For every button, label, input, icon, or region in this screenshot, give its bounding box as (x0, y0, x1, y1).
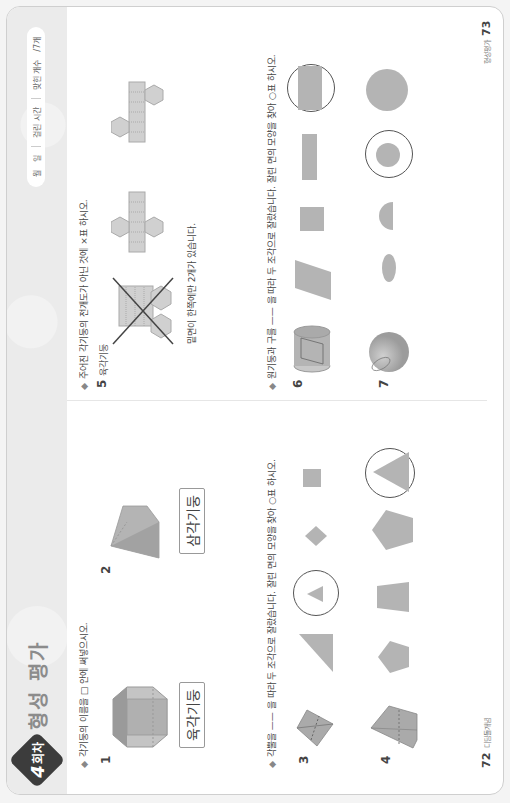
page-number-72: 72 (480, 753, 493, 768)
net-option-crossed[interactable] (111, 276, 175, 346)
question-5-hint: 밑면이 한쪽에만 2개가 있습니다. (185, 223, 198, 344)
rotated-spread: 4회차 형성 평가 월 일 걸린 시간 맞힌 개수 /7개 ◆각기둥의 이름을 … (0, 0, 510, 803)
bullet-icon: ◆ (79, 383, 89, 390)
option-triangle-large[interactable] (369, 450, 411, 494)
month-field[interactable]: 월 (31, 170, 42, 177)
option-square[interactable] (301, 467, 323, 489)
triangular-prism-icon (107, 502, 163, 562)
option-rhombus[interactable] (303, 524, 329, 548)
question-2-number: 2 (99, 566, 113, 574)
bullet-icon: ◆ (267, 383, 277, 390)
question-3-number: 3 (297, 756, 311, 764)
option-rectangle-thin[interactable] (299, 134, 321, 182)
option-triangle[interactable] (297, 632, 337, 676)
question-7-number: 7 (377, 380, 391, 388)
option-triangle-small[interactable] (303, 582, 327, 606)
option-circle-small[interactable] (375, 142, 401, 168)
square-pyramid-icon (293, 706, 337, 750)
option-square[interactable] (297, 204, 327, 234)
option-parallelogram[interactable] (293, 258, 335, 302)
option-pentagon[interactable] (375, 638, 413, 676)
divider (31, 146, 41, 147)
question-6-number: 6 (291, 380, 305, 388)
round-badge: 4회차 (17, 740, 57, 780)
section-3-instruction: ◆주어진 각기둥의 전개도가 아닌 것에 ×표 하시오. (77, 200, 90, 391)
pentagonal-pyramid-icon (369, 702, 421, 752)
sphere-icon (367, 330, 411, 374)
question-5-subtitle: 육각기둥 (97, 344, 110, 376)
bullet-icon: ◆ (267, 761, 277, 768)
net-option-a[interactable] (111, 190, 175, 254)
footer-label-right: 형성평가 (482, 40, 492, 64)
question-2-answer-box[interactable]: 삼각기둥 (179, 488, 205, 554)
option-rectangle[interactable] (297, 66, 323, 112)
question-1-number: 1 (99, 756, 113, 764)
net-option-b[interactable] (111, 80, 175, 144)
question-5-number: 5 (95, 380, 109, 388)
page-divider (67, 400, 487, 401)
option-trapezoid[interactable] (373, 578, 413, 616)
time-field[interactable]: 걸린 시간 (31, 107, 42, 138)
workbook-spread: 4회차 형성 평가 월 일 걸린 시간 맞힌 개수 /7개 ◆각기둥의 이름을 … (6, 6, 504, 795)
score-box: 월 일 걸린 시간 맞힌 개수 /7개 (27, 27, 45, 187)
option-pentagon-large[interactable] (369, 506, 417, 554)
divider (31, 98, 41, 99)
section-1-instruction: ◆각기둥의 이름을 □ 안에 써넣으시오. (77, 622, 90, 768)
option-ellipse[interactable] (379, 252, 399, 284)
day-field[interactable]: 일 (31, 155, 42, 162)
cylinder-icon (291, 324, 333, 374)
option-half-circle[interactable] (375, 200, 397, 232)
section-4-instruction: ◆원기둥과 구를 —— 을 따라 두 조각으로 잘랐습니다. 잘린 면의 모양을… (265, 54, 278, 390)
hexagonal-prism-icon (109, 685, 169, 749)
footer-label-left: 디딤돌개념 (482, 718, 492, 748)
option-circle[interactable] (365, 68, 409, 112)
correct-field[interactable]: 맞힌 개수 (31, 60, 42, 91)
page-title: 형성 평가 (23, 641, 52, 730)
total-count: /7개 (31, 37, 42, 52)
section-2-instruction: ◆각뿔을 —— 을 따라 두 조각으로 잘랐습니다. 잘린 면의 모양을 찾아 … (265, 459, 278, 768)
bullet-icon: ◆ (79, 761, 89, 768)
question-1-answer-box[interactable]: 육각기둥 (179, 682, 205, 748)
page-number-73: 73 (480, 21, 493, 36)
question-4-number: 4 (379, 756, 393, 764)
